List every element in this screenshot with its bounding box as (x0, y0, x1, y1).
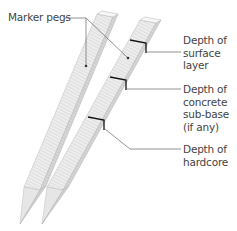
leader-dot-right (127, 57, 130, 60)
marker-pegs-label: Marker pegs (8, 11, 71, 24)
concrete-subbase-label: Depth of concrete sub-base (if any) (183, 83, 229, 133)
leader-dot-left (85, 65, 88, 68)
hardcore-label: Depth of hardcore (183, 143, 228, 168)
surface-layer-label: Depth of surface layer (183, 34, 227, 72)
hardcore-leader (105, 129, 181, 149)
